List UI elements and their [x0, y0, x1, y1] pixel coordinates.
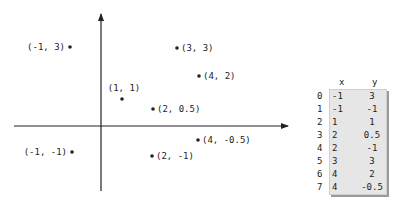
- column-header-y: y: [372, 77, 377, 87]
- point-label: (2, -1): [156, 151, 194, 161]
- row-index: 2: [317, 116, 322, 129]
- column-header-x: x: [339, 77, 344, 87]
- table-row: 42-1: [312, 142, 392, 155]
- point-label: (-1, 3): [27, 42, 65, 52]
- row-index: 0: [317, 90, 322, 103]
- cell-y: 0.5: [358, 129, 386, 142]
- point-label: (4, -0.5): [202, 135, 251, 145]
- point-label: (2, 0.5): [157, 104, 200, 114]
- table-row: 0-13: [312, 90, 392, 103]
- point-group: (-1, 3)(3, 3)(4, 2)(1, 1)(2, 0.5)(4, -0.…: [24, 42, 251, 161]
- table-row: 533: [312, 155, 392, 168]
- row-index: 4: [317, 142, 322, 155]
- cell-y: -1: [358, 103, 386, 116]
- cell-y: 1: [358, 116, 386, 129]
- point-label: (-1, -1): [24, 147, 67, 157]
- point-label: (3, 3): [181, 43, 214, 53]
- table-row: 74-0.5: [312, 181, 392, 194]
- point-marker: [70, 150, 74, 154]
- cell-x: 4: [332, 168, 348, 181]
- point-marker: [175, 46, 179, 50]
- row-index: 6: [317, 168, 322, 181]
- point-marker: [151, 107, 155, 111]
- row-index: 5: [317, 155, 322, 168]
- cell-x: 4: [332, 181, 348, 194]
- row-index: 1: [317, 103, 322, 116]
- cell-y: -1: [358, 142, 386, 155]
- cell-x: 2: [332, 129, 348, 142]
- point-label: (4, 2): [203, 71, 236, 81]
- cell-y: 3: [358, 155, 386, 168]
- row-index: 3: [317, 129, 322, 142]
- cell-x: 1: [332, 116, 348, 129]
- cell-x: 2: [332, 142, 348, 155]
- point-marker: [68, 45, 72, 49]
- coordinate-plane: (-1, 3)(3, 3)(4, 2)(1, 1)(2, 0.5)(4, -0.…: [0, 0, 300, 205]
- point-marker: [150, 154, 154, 158]
- cell-y: -0.5: [358, 181, 386, 194]
- table-row: 642: [312, 168, 392, 181]
- cell-y: 2: [358, 168, 386, 181]
- point-marker: [196, 138, 200, 142]
- point-marker: [120, 97, 124, 101]
- cell-y: 3: [358, 90, 386, 103]
- table-row: 211: [312, 116, 392, 129]
- cell-x: -1: [332, 103, 348, 116]
- row-index: 7: [317, 181, 322, 194]
- table-row: 320.5: [312, 129, 392, 142]
- cell-x: -1: [332, 90, 348, 103]
- point-label: (1, 1): [108, 83, 141, 93]
- table-row: 1-1-1: [312, 103, 392, 116]
- point-marker: [197, 74, 201, 78]
- cell-x: 3: [332, 155, 348, 168]
